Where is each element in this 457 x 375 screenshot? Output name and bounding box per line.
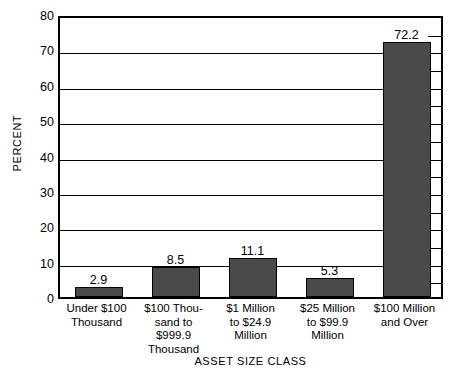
- bar: [383, 42, 431, 297]
- bar: [75, 287, 123, 297]
- y-axis-tick-label: 80: [28, 10, 54, 22]
- bar: [229, 258, 277, 297]
- bar-value-label: 11.1: [223, 245, 283, 258]
- y-axis-tick-labels: 01020304050607080: [24, 0, 54, 375]
- x-axis-category-label: $100 Million and Over: [362, 302, 447, 329]
- y-axis-tick-label: 40: [28, 152, 54, 164]
- y-axis-tick-label: 60: [28, 81, 54, 93]
- y-axis-title: PERCENT: [11, 98, 23, 188]
- bar-value-label: 2.9: [69, 274, 129, 287]
- plot-area: 2.98.511.15.372.2: [58, 16, 443, 299]
- x-axis-category-label: $25 Million to $99.9 Million: [285, 302, 370, 343]
- y-axis-tick-label: 10: [28, 258, 54, 270]
- bar-value-label: 5.3: [300, 265, 360, 278]
- bar: [306, 278, 354, 297]
- x-axis-title: ASSET SIZE CLASS: [58, 355, 443, 367]
- bar-chart: PERCENT 01020304050607080 2.98.511.15.37…: [0, 0, 457, 375]
- y-axis-tick-label: 70: [28, 45, 54, 57]
- x-axis-category-label: $100 Thou- sand to $999.9 Thousand: [131, 302, 216, 356]
- x-axis-category-label: Under $100 Thousand: [54, 302, 139, 329]
- y-axis-tick-label: 30: [28, 187, 54, 199]
- bar: [152, 267, 200, 297]
- bar-value-label: 8.5: [146, 254, 206, 267]
- y-axis-tick-label: 50: [28, 116, 54, 128]
- y-axis-tick-label: 0: [28, 293, 54, 305]
- y-axis-tick-label: 20: [28, 222, 54, 234]
- x-axis-category-label: $1 Million to $24.9 Million: [208, 302, 293, 343]
- bar-value-label: 72.2: [377, 29, 437, 42]
